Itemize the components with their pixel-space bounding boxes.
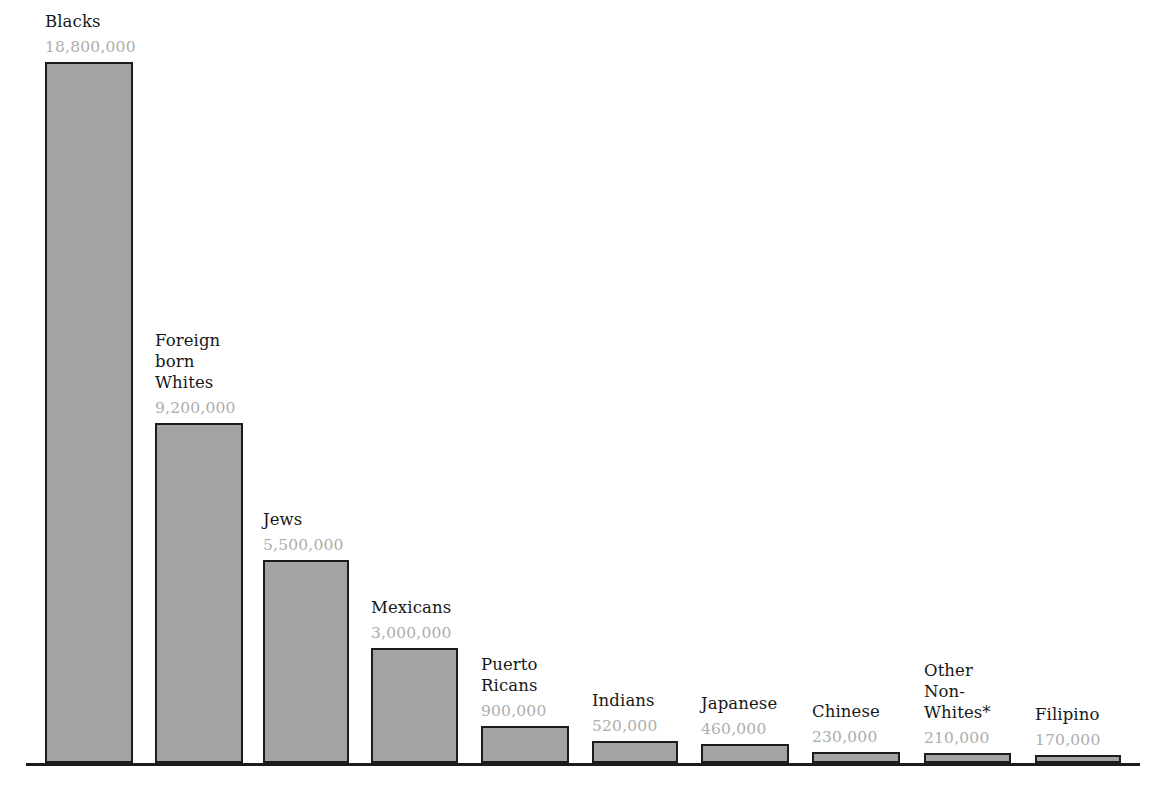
bar-category-label: Puerto Ricans — [481, 654, 538, 696]
bar-category-label: Chinese — [812, 701, 880, 722]
bar-group: 210,000Other Non- Whites* — [924, 753, 1011, 763]
bar-group: 9,200,000Foreign born Whites — [155, 423, 243, 763]
bar[interactable] — [155, 423, 243, 763]
bar[interactable] — [592, 741, 678, 763]
bar-value-label: 230,000 — [812, 730, 878, 746]
bar-category-label: Filipino — [1035, 704, 1099, 725]
bar[interactable] — [263, 560, 349, 763]
bar-category-label: Mexicans — [371, 597, 451, 618]
bar-group: 460,000Japanese — [701, 744, 789, 763]
bar[interactable] — [45, 62, 133, 763]
bar[interactable] — [924, 753, 1011, 763]
bar-value-label: 18,800,000 — [45, 40, 136, 56]
bar-category-label: Other Non- Whites* — [924, 660, 991, 723]
bar-group: 170,000Filipino — [1035, 755, 1121, 763]
x-axis-baseline — [26, 763, 1140, 766]
bar-category-label: Blacks — [45, 11, 101, 32]
bar-group: 3,000,000Mexicans — [371, 648, 458, 763]
bar-group: 230,000Chinese — [812, 752, 900, 763]
bar-group: 900,000Puerto Ricans — [481, 726, 569, 763]
bar-category-label: Japanese — [701, 693, 777, 714]
bar-value-label: 900,000 — [481, 704, 547, 720]
bar[interactable] — [481, 726, 569, 763]
bar-value-label: 9,200,000 — [155, 401, 236, 417]
bar-value-label: 5,500,000 — [263, 538, 344, 554]
bar[interactable] — [701, 744, 789, 763]
bar-category-label: Foreign born Whites — [155, 330, 220, 393]
bar-chart: 18,800,000Blacks9,200,000Foreign born Wh… — [0, 0, 1155, 788]
bar-value-label: 210,000 — [924, 731, 990, 747]
bar[interactable] — [1035, 755, 1121, 763]
bar-value-label: 520,000 — [592, 719, 658, 735]
bar-group: 18,800,000Blacks — [45, 62, 133, 763]
bar-category-label: Indians — [592, 690, 655, 711]
plot-area: 18,800,000Blacks9,200,000Foreign born Wh… — [0, 0, 1155, 788]
bar-value-label: 460,000 — [701, 722, 767, 738]
bar-category-label: Jews — [263, 509, 302, 530]
bar[interactable] — [371, 648, 458, 763]
bar-value-label: 170,000 — [1035, 733, 1101, 749]
bar-group: 520,000Indians — [592, 741, 678, 763]
bar-group: 5,500,000Jews — [263, 560, 349, 763]
bar-value-label: 3,000,000 — [371, 626, 452, 642]
bar[interactable] — [812, 752, 900, 763]
